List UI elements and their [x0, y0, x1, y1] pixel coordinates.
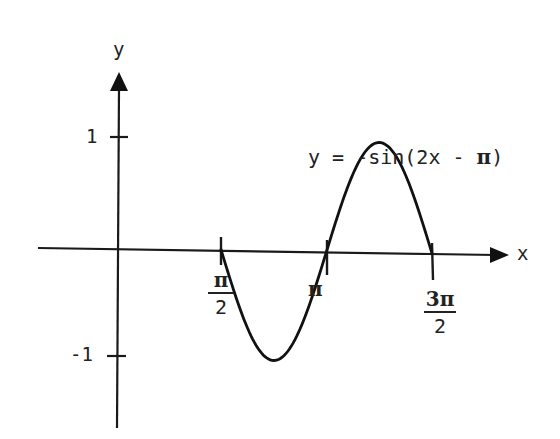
equation-suffix: ) — [491, 145, 503, 169]
y-axis-label: y — [113, 40, 124, 59]
plot-canvas — [0, 0, 560, 439]
three-pi-half-denominator: 2 — [424, 316, 456, 336]
x-axis-line — [38, 248, 496, 255]
x-axis-arrow-icon — [490, 247, 509, 263]
x-tick-3pi-half — [432, 243, 433, 280]
x-tick-label-3pi-half: 3π 2 — [424, 289, 456, 336]
equation-pi: π — [477, 145, 492, 169]
equation-prefix: y = -sin(2x - — [308, 145, 477, 169]
fraction-bar — [424, 311, 456, 313]
equation-label: y = -sin(2x - π) — [308, 147, 503, 167]
y-axis-line — [117, 88, 119, 428]
y-axis-arrow-icon — [110, 72, 128, 91]
x-tick-label-pi-half: π 2 — [208, 270, 234, 317]
pi-half-numerator: π — [208, 270, 234, 290]
x-axis-label: x — [517, 244, 528, 263]
y-tick-label-1: 1 — [86, 127, 97, 146]
pi-half-denominator: 2 — [208, 297, 234, 317]
y-tick-label-neg1: -1 — [70, 345, 93, 364]
fraction-bar — [208, 292, 234, 294]
x-tick-label-pi: π — [308, 279, 323, 299]
three-pi-half-numerator: 3π — [424, 289, 456, 309]
